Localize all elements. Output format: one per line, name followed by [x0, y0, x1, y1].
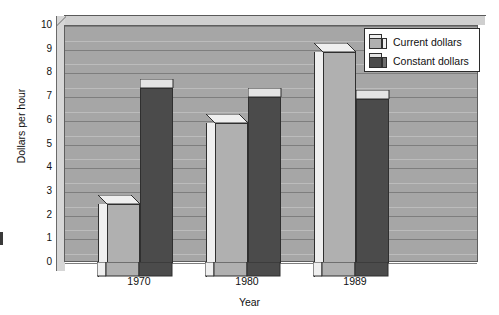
bar-front-face — [140, 88, 173, 263]
bar-front-face — [248, 97, 281, 263]
x-tick-label: 1980 — [217, 275, 277, 287]
legend-item-constant-dollars[interactable]: Constant dollars — [369, 51, 479, 70]
gridline — [65, 73, 477, 74]
bar-1970-current — [107, 195, 140, 263]
bar-top-face — [314, 43, 356, 52]
bar-front-face — [323, 52, 356, 263]
bar-top-face — [356, 90, 398, 99]
bar-front-face — [356, 99, 389, 263]
bar-side-bevel — [98, 195, 107, 263]
legend-label: Current dollars — [393, 36, 462, 48]
y-tick-label: 7 — [28, 91, 52, 101]
x-tick-label: 1970 — [109, 275, 169, 287]
legend-item-current-dollars[interactable]: Current dollars — [369, 32, 479, 51]
y-tick-label: 9 — [28, 44, 52, 54]
bar-front-face — [107, 204, 140, 263]
chart-page: 012345678910 Dollars per hour Year Curre… — [0, 0, 499, 315]
y-tick-label: 1 — [28, 233, 52, 243]
x-axis-title: Year — [0, 296, 499, 308]
bar-front-face — [215, 123, 248, 263]
bar-top-face — [206, 114, 248, 123]
y-tick-label: 0 — [28, 257, 52, 267]
y-tick-label: 5 — [28, 139, 52, 149]
scan-artifact-mark — [0, 232, 3, 245]
light-cube-icon — [369, 34, 388, 49]
x-tick-label: 1989 — [325, 275, 385, 287]
y-tick-label: 4 — [28, 162, 52, 172]
y-tick-label: 2 — [28, 210, 52, 220]
bar-1980-current — [215, 114, 248, 263]
bar-1989-current — [323, 43, 356, 263]
y-tick-label: 3 — [28, 186, 52, 196]
y-tick-label: 10 — [28, 20, 52, 30]
bar-1970-constant — [140, 79, 173, 263]
y-tick-label: 6 — [28, 115, 52, 125]
bar-side-bevel — [206, 114, 215, 263]
legend: Current dollars Constant dollars — [364, 28, 480, 72]
bar-side-bevel — [314, 43, 323, 263]
bar-1980-constant — [248, 88, 281, 263]
legend-label: Constant dollars — [393, 55, 469, 67]
y-tick-label: 8 — [28, 67, 52, 77]
plot-top-face — [56, 16, 485, 25]
plot-top-edge — [64, 15, 486, 16]
bar-top-face — [140, 79, 182, 88]
dark-cube-icon — [369, 53, 388, 68]
bar-top-face — [98, 195, 140, 204]
y-axis-title: Dollars per hour — [15, 76, 27, 176]
gridline — [65, 26, 477, 27]
bar-1989-constant — [356, 90, 389, 263]
bar-top-face — [248, 88, 290, 97]
